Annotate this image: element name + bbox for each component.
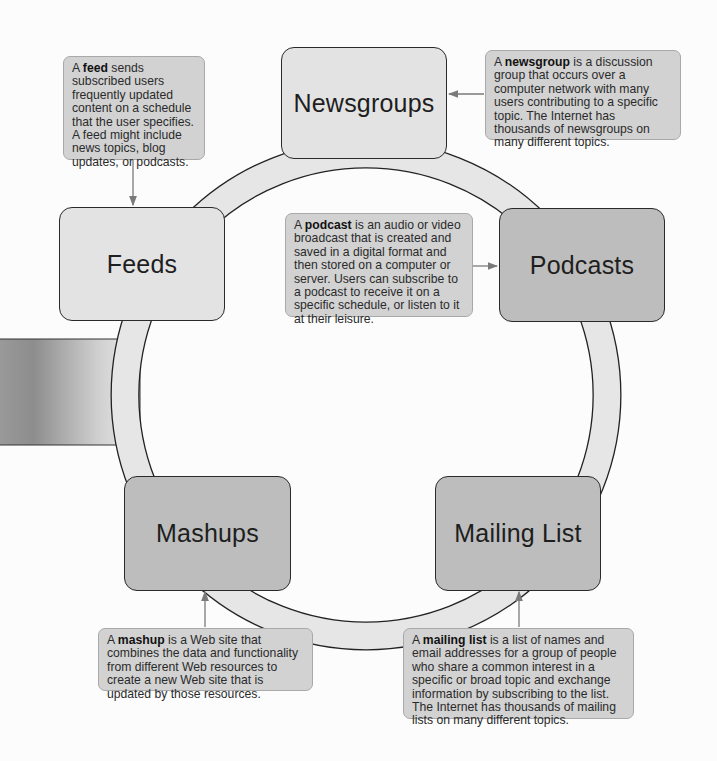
callout-mailing-list: A mailing list is a list of names and em… xyxy=(403,628,634,719)
callout-podcast: A podcast is an audio or video broadcast… xyxy=(285,213,473,317)
node-mashups: Mashups xyxy=(124,476,291,591)
callout-term: feed xyxy=(83,61,108,75)
node-label: Newsgroups xyxy=(294,89,435,118)
node-mailing-list: Mailing List xyxy=(435,476,601,591)
node-label: Mashups xyxy=(156,519,259,548)
node-label: Mailing List xyxy=(454,519,581,548)
node-newsgroups: Newsgroups xyxy=(281,47,447,159)
node-feeds: Feeds xyxy=(59,207,225,321)
callout-term: newsgroup xyxy=(505,55,570,69)
callout-newsgroup: A newsgroup is a discussion group that o… xyxy=(485,50,681,140)
node-podcasts: Podcasts xyxy=(499,208,665,322)
callout-mashup: A mashup is a Web site that combines the… xyxy=(98,628,313,691)
callout-term: podcast xyxy=(305,218,352,232)
node-label: Podcasts xyxy=(530,251,634,280)
callout-term: mashup xyxy=(118,633,165,647)
node-label: Feeds xyxy=(107,250,177,279)
callout-term: mailing list xyxy=(423,633,487,647)
callout-feed: A feed sends subscribed users frequently… xyxy=(63,56,205,160)
